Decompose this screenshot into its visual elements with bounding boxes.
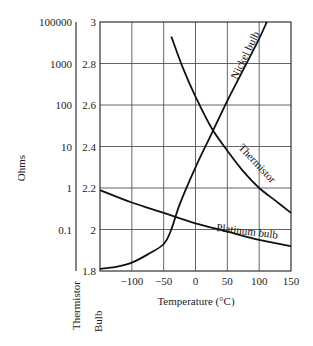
thermistor-axis-label: Thermistor xyxy=(70,281,82,330)
bulb-tick-label: 2 xyxy=(91,224,97,236)
bulb-axis-label: Bulb xyxy=(92,310,104,332)
bulb-tick-label: 3 xyxy=(91,16,97,28)
y-axis-label: Ohms xyxy=(15,155,27,181)
bulb-tick-label: 2.4 xyxy=(82,141,96,153)
x-tick-label: 0 xyxy=(193,275,199,287)
thermistor-tick-label: 1000 xyxy=(50,58,73,70)
thermistor-curve xyxy=(171,37,291,213)
thermistor-tick-label: 10 xyxy=(61,141,73,153)
thermistor-tick-label: 100 xyxy=(56,99,73,111)
x-tick-label: 50 xyxy=(222,275,234,287)
bulb-tick-label: 1.8 xyxy=(82,265,96,277)
x-axis-ticks: −100−50050100150 xyxy=(120,275,299,287)
bulb-tick-label: 2.2 xyxy=(82,182,96,194)
thermistor-curve-label: Thermistor xyxy=(237,141,279,185)
bulb-tick-label: 2.6 xyxy=(82,99,96,111)
x-axis-label: Temperature (°C) xyxy=(157,295,235,308)
nickel-bulb-label: Nickel bulb xyxy=(228,29,262,81)
bulb-tick-label: 2.8 xyxy=(82,58,96,70)
bulb-axis-ticks: 32.82.62.42.221.8 xyxy=(82,16,96,277)
x-tick-label: −50 xyxy=(155,275,173,287)
thermistor-tick-label: 0.1 xyxy=(58,224,72,236)
thermistor-axis-ticks: 10000010001001010.1 xyxy=(39,16,73,236)
x-tick-label: −100 xyxy=(120,275,143,287)
thermistor-tick-label: 1 xyxy=(67,182,73,194)
resistance-temperature-chart: 10000010001001010.1 32.82.62.42.221.8 −1… xyxy=(0,0,313,346)
thermistor-tick-label: 100000 xyxy=(39,16,73,28)
x-tick-label: 150 xyxy=(283,275,300,287)
x-tick-label: 100 xyxy=(251,275,268,287)
